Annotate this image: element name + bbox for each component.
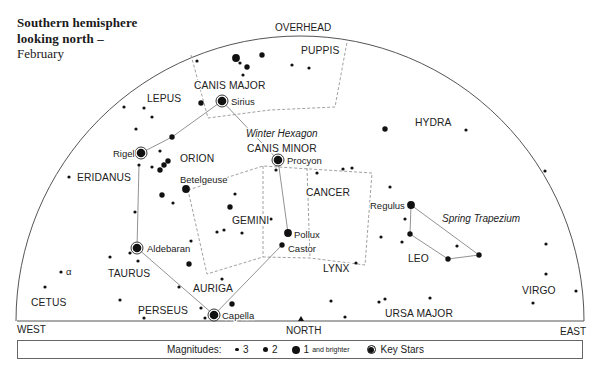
legend-mag3-label: 3 xyxy=(243,344,249,355)
label-north: NORTH xyxy=(286,325,321,336)
star-mag3-icon xyxy=(233,192,236,195)
star-mag3-icon xyxy=(341,167,344,170)
star-rigel-key-star-icon xyxy=(135,147,147,159)
legend-key-label: Key Stars xyxy=(381,344,424,355)
label-orion: ORION xyxy=(180,153,214,164)
star-mag3-icon xyxy=(329,299,332,302)
label-rigel: Rigel xyxy=(113,148,135,159)
star-capella-key-star-icon xyxy=(208,309,220,321)
star-mag2-icon xyxy=(165,158,170,163)
key-star-icon xyxy=(367,345,376,354)
star-mag3-icon xyxy=(241,73,244,76)
label-west: WEST xyxy=(17,324,46,335)
star-mag3-icon xyxy=(222,228,225,231)
label-α: α xyxy=(66,266,72,277)
label-cancer: CANCER xyxy=(306,187,350,198)
magnitude-legend: Magnitudes: 3 2 1 and brighter Key Stars xyxy=(17,340,583,359)
winter-hexagon-line xyxy=(214,245,282,315)
star-mag3-icon xyxy=(307,66,310,69)
medium-star-icon xyxy=(263,347,269,353)
label-hydra: HYDRA xyxy=(415,117,452,128)
star-mag3-icon xyxy=(128,251,131,254)
star-betelgeuse-mag1-icon xyxy=(182,185,190,193)
label-leo: LEO xyxy=(408,253,429,264)
star-castor-mag2-icon xyxy=(279,242,284,247)
legend-mag2-label: 2 xyxy=(272,344,278,355)
star-mag2-icon xyxy=(198,100,203,105)
label-aldebaran: Aldebaran xyxy=(147,243,190,254)
star-mag3-icon xyxy=(203,316,206,319)
star-mag3-icon xyxy=(315,171,318,174)
star-mag3-icon xyxy=(455,244,458,247)
star-sirius-key-star-icon xyxy=(216,95,228,107)
label-betelgeuse: Betelgeuse xyxy=(180,174,228,185)
star-mag3-icon xyxy=(574,289,577,292)
star-mag2-icon xyxy=(169,134,174,139)
label-canis-major: CANIS MAJOR xyxy=(194,80,265,91)
label-capella: Capella xyxy=(222,310,255,321)
star-mag3-icon xyxy=(67,175,70,178)
star-mag3-icon xyxy=(142,106,145,109)
star-mag3-icon xyxy=(43,285,46,288)
sky-labels: OVERHEADWESTNORTHEASTPUPPISCANIS MAJORSi… xyxy=(17,22,586,337)
star-mag2-icon xyxy=(476,252,481,257)
star-aldebaran-key-star-icon xyxy=(131,242,143,254)
star-mag2-icon xyxy=(229,301,234,306)
star-mag2-icon xyxy=(259,52,264,57)
star-mag2-icon xyxy=(159,192,164,197)
label-lynx: LYNX xyxy=(323,263,350,274)
north-marker-icon xyxy=(298,316,304,321)
star-mag3-icon xyxy=(269,217,272,220)
label-overhead: OVERHEAD xyxy=(275,22,331,33)
star-mag2-icon xyxy=(161,162,166,167)
star-mag3-icon xyxy=(199,306,202,309)
winter-hexagon-line xyxy=(141,101,222,153)
star-mag3-icon xyxy=(171,201,174,204)
label-gemini: GEMINI xyxy=(232,215,269,226)
legend-title: Magnitudes: xyxy=(167,344,221,355)
star-mag3-icon xyxy=(142,316,145,319)
star-mag2-icon xyxy=(407,231,412,236)
label-spring-trapezium: Spring Trapezium xyxy=(442,213,520,224)
star-mag3-icon xyxy=(544,242,547,245)
star-mag2-icon xyxy=(186,261,191,266)
legend-mag3: 3 xyxy=(235,344,248,355)
star-mag3-icon xyxy=(531,301,534,304)
star-mag3-icon xyxy=(274,168,277,171)
star-mag3-icon xyxy=(377,300,380,303)
sky-map: OVERHEADWESTNORTHEASTPUPPISCANIS MAJORSi… xyxy=(0,0,600,367)
star-mag3-icon xyxy=(354,261,357,264)
small-star-icon xyxy=(235,348,239,352)
label-virgo: VIRGO xyxy=(522,285,556,296)
star-mag3-icon xyxy=(350,166,353,169)
legend-key-stars: Key Stars xyxy=(367,344,424,355)
star-mag3-icon xyxy=(137,163,140,166)
label-pollux: Pollux xyxy=(294,229,320,240)
label-taurus: TAURUS xyxy=(108,268,150,279)
winter-hexagon-line xyxy=(278,160,288,233)
large-star-icon xyxy=(292,346,300,354)
legend-mag2: 2 xyxy=(263,344,278,355)
star-procyon-key-star-icon xyxy=(272,154,284,166)
label-puppis: PUPPIS xyxy=(301,45,339,56)
star-mag3-icon xyxy=(343,315,346,318)
star-mag2-icon xyxy=(382,126,387,131)
star-mag3-icon xyxy=(400,240,403,243)
star-mag3-icon xyxy=(403,217,406,220)
label-auriga: AURIGA xyxy=(193,283,233,294)
star-mag2-icon xyxy=(157,167,162,172)
star-mag3-icon xyxy=(195,59,198,62)
star-mag3-icon xyxy=(134,127,137,130)
star-mag3-icon xyxy=(464,128,467,131)
label-procyon: Procyon xyxy=(287,155,322,166)
legend-mag1: 1 and brighter xyxy=(292,344,350,355)
star-mag1-icon xyxy=(232,54,240,62)
star-mag3-icon xyxy=(240,231,243,234)
label-cetus: CETUS xyxy=(31,297,66,308)
star-mag3-icon xyxy=(383,297,386,300)
label-lepus: LEPUS xyxy=(147,93,181,104)
label-castor: Castor xyxy=(288,243,316,254)
star-mag3-icon xyxy=(215,230,218,233)
star-mag3-icon xyxy=(544,272,547,275)
label-perseus: PERSEUS xyxy=(138,305,188,316)
